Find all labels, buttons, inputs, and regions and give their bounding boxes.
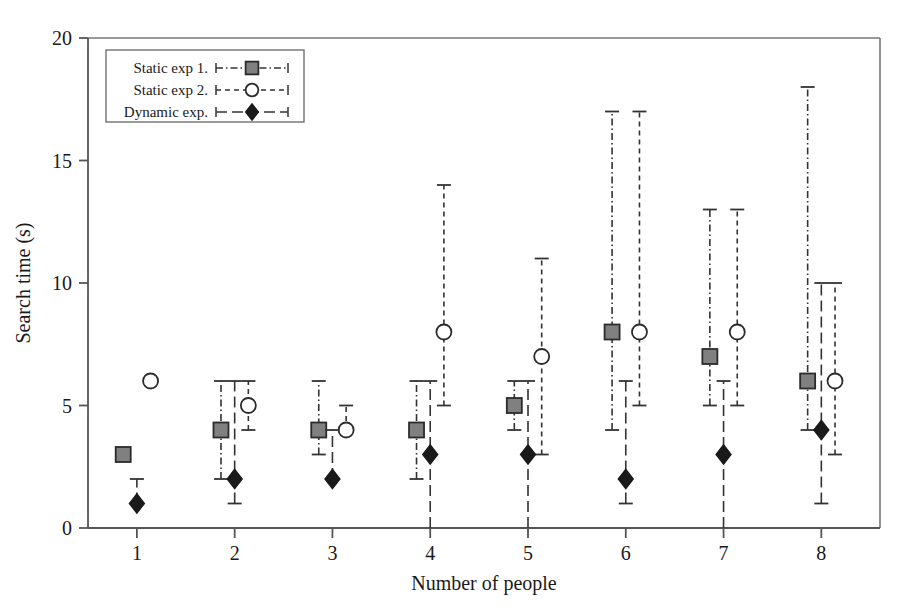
- legend: Static exp 1.Static exp 2.Dynamic exp.: [106, 50, 304, 122]
- marker-circle: [534, 349, 549, 364]
- y-axis-ticks: 05101520: [52, 27, 88, 539]
- y-tick-label: 0: [62, 517, 72, 539]
- data-point: [534, 259, 549, 455]
- data-point: [716, 381, 731, 528]
- marker-diamond: [814, 421, 829, 440]
- series-1: [116, 87, 815, 479]
- data-point: [605, 112, 620, 431]
- data-point: [423, 381, 438, 528]
- marker-square: [605, 325, 620, 340]
- data-point: [325, 430, 340, 489]
- data-point: [241, 381, 256, 430]
- data-point: [213, 381, 228, 479]
- marker-circle: [632, 325, 647, 340]
- marker-square: [311, 423, 326, 438]
- data-point: [507, 381, 522, 430]
- marker-square: [213, 423, 228, 438]
- x-tick-label: 4: [425, 542, 435, 564]
- x-axis-ticks: 12345678: [132, 528, 826, 564]
- marker-square: [116, 447, 131, 462]
- y-tick-label: 5: [62, 395, 72, 417]
- marker-diamond: [227, 470, 242, 489]
- series-3: [129, 283, 828, 528]
- x-tick-label: 6: [621, 542, 631, 564]
- marker-diamond: [423, 445, 438, 464]
- marker-circle: [339, 423, 354, 438]
- marker-circle: [241, 398, 256, 413]
- series-2: [143, 112, 842, 455]
- data-point: [618, 381, 633, 504]
- y-tick-label: 15: [52, 150, 72, 172]
- marker-circle: [143, 374, 158, 389]
- data-point: [632, 112, 647, 406]
- data-point: [339, 406, 354, 438]
- data-point: [702, 210, 717, 406]
- data-point: [116, 447, 131, 462]
- data-point: [436, 185, 451, 406]
- y-axis-title: Search time (s): [12, 222, 35, 343]
- x-tick-label: 2: [230, 542, 240, 564]
- data-point: [814, 283, 829, 504]
- x-tick-label: 7: [719, 542, 729, 564]
- data-point: [409, 381, 424, 479]
- x-tick-label: 8: [816, 542, 826, 564]
- marker-square: [409, 423, 424, 438]
- marker-square: [507, 398, 522, 413]
- data-point: [227, 381, 242, 504]
- marker-circle: [246, 84, 259, 97]
- marker-square: [800, 374, 815, 389]
- marker-diamond: [521, 445, 536, 464]
- legend-label: Static exp 1.: [133, 60, 208, 76]
- marker-circle: [730, 325, 745, 340]
- x-axis-title: Number of people: [411, 572, 557, 595]
- y-tick-label: 10: [52, 272, 72, 294]
- data-point: [828, 283, 843, 455]
- marker-circle: [436, 325, 451, 340]
- marker-diamond: [129, 494, 144, 513]
- axis-titles: Number of peopleSearch time (s): [12, 222, 557, 595]
- data-point: [800, 87, 815, 430]
- chart-figure: 0510152012345678Number of peopleSearch t…: [0, 0, 916, 608]
- marker-diamond: [716, 445, 731, 464]
- marker-diamond: [325, 470, 340, 489]
- marker-square: [246, 62, 259, 75]
- x-tick-label: 1: [132, 542, 142, 564]
- x-tick-label: 5: [523, 542, 533, 564]
- legend-label: Dynamic exp.: [124, 104, 208, 120]
- data-point: [143, 374, 158, 389]
- marker-diamond: [618, 470, 633, 489]
- data-point: [129, 479, 144, 513]
- data-point: [311, 381, 326, 455]
- legend-label: Static exp 2.: [133, 82, 208, 98]
- marker-square: [702, 349, 717, 364]
- data-point: [730, 210, 745, 406]
- scatter-plot-svg: 0510152012345678Number of peopleSearch t…: [0, 0, 916, 608]
- marker-circle: [828, 374, 843, 389]
- x-tick-label: 3: [327, 542, 337, 564]
- y-tick-label: 20: [52, 27, 72, 49]
- data-point: [521, 381, 536, 528]
